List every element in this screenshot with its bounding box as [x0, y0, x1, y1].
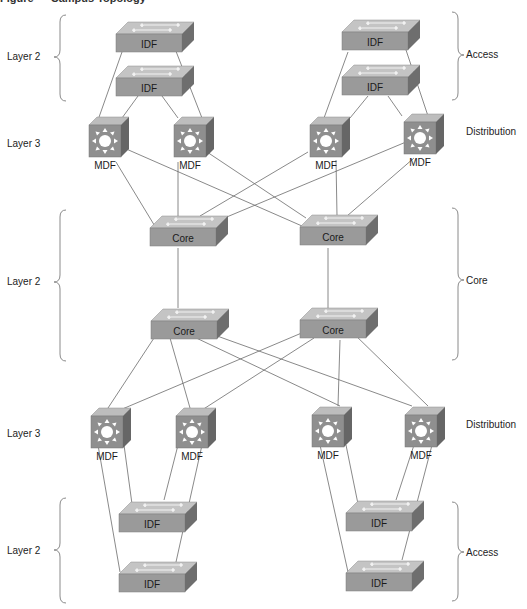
- svg-text:IDF: IDF: [371, 518, 387, 529]
- core-switch-4: Core: [300, 308, 378, 338]
- label-layer2-core: Layer 2: [7, 276, 41, 287]
- svg-text:MDF: MDF: [96, 451, 118, 462]
- mdf-switch-top-2: MDF: [174, 117, 214, 171]
- svg-text:IDF: IDF: [144, 519, 160, 530]
- layer-labels-left: Layer 2 Layer 3 Layer 2 Layer 3 Layer 2: [7, 51, 41, 556]
- idf-switch-bottom-right-2: IDF: [346, 561, 424, 591]
- svg-text:Core: Core: [322, 232, 344, 243]
- idf-switch-top-right-2: IDF: [342, 65, 420, 95]
- svg-text:IDF: IDF: [144, 579, 160, 590]
- svg-text:MDF: MDF: [94, 160, 116, 171]
- idf-switch-bottom-left-1: IDF: [119, 502, 197, 532]
- idf-switch-top-left-1: IDF: [116, 22, 194, 52]
- core-switch-2: Core: [300, 215, 378, 245]
- idf-switch-bottom-right-1: IDF: [346, 501, 424, 531]
- idf-switch-top-left-2: IDF: [116, 66, 194, 96]
- links: [98, 41, 432, 572]
- svg-text:Core: Core: [173, 326, 195, 337]
- svg-text:Core: Core: [172, 233, 194, 244]
- svg-text:MDF: MDF: [179, 160, 201, 171]
- svg-text:IDF: IDF: [141, 39, 157, 50]
- core-switch-3: Core: [151, 309, 229, 339]
- svg-text:MDF: MDF: [181, 451, 203, 462]
- label-distribution-bottom: Distribution: [466, 419, 516, 430]
- idf-switch-bottom-left-2: IDF: [119, 562, 197, 592]
- svg-text:IDF: IDF: [141, 83, 157, 94]
- svg-text:MDF: MDF: [317, 450, 339, 461]
- mdf-switch-top-4: MDF: [404, 114, 444, 168]
- mdf-switch-bottom-3: MDF: [312, 407, 352, 461]
- label-layer2-top: Layer 2: [7, 51, 41, 62]
- svg-text:MDF: MDF: [315, 160, 337, 171]
- svg-text:MDF: MDF: [410, 450, 432, 461]
- label-access-top: Access: [466, 49, 498, 60]
- label-core: Core: [466, 275, 488, 286]
- mdf-switch-bottom-4: MDF: [405, 407, 445, 461]
- svg-text:MDF: MDF: [409, 157, 431, 168]
- mdf-switch-top-3: MDF: [310, 117, 350, 171]
- layer-labels-right: Access Distribution Core Distribution Ac…: [466, 49, 516, 558]
- label-layer2-bottom: Layer 2: [7, 545, 41, 556]
- label-layer3-bottom: Layer 3: [7, 428, 41, 439]
- network-diagram: Layer 2 Layer 3 Layer 2 Layer 3 Layer 2 …: [0, 0, 527, 609]
- svg-text:Core: Core: [322, 325, 344, 336]
- core-switch-1: Core: [150, 216, 228, 246]
- svg-text:IDF: IDF: [367, 82, 383, 93]
- mdf-switch-top-1: MDF: [89, 117, 129, 171]
- svg-text:IDF: IDF: [371, 578, 387, 589]
- label-layer3-top: Layer 3: [7, 138, 41, 149]
- mdf-switch-bottom-2: MDF: [176, 408, 216, 462]
- label-access-bottom: Access: [466, 547, 498, 558]
- svg-text:IDF: IDF: [367, 37, 383, 48]
- idf-switch-top-right-1: IDF: [342, 20, 420, 50]
- label-distribution-top: Distribution: [466, 126, 516, 137]
